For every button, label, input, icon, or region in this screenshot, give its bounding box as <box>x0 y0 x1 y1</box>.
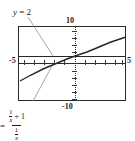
function-equals-sign: = <box>0 121 5 131</box>
axis-label-xmax: 5 <box>127 57 131 65</box>
denominator-inner-fraction: 1 x <box>15 127 19 141</box>
axis-label-xmin: -5 <box>9 57 16 65</box>
plot-viewport <box>18 26 126 101</box>
asymptote-variable: y <box>13 7 17 17</box>
asymptote-equals-sign: = <box>19 7 24 17</box>
denominator-inner-den: x <box>15 134 18 141</box>
asymptote-value: 2 <box>27 7 32 17</box>
curve-path <box>20 37 126 81</box>
graph-figure: 10 -10 -5 5 <box>0 0 135 141</box>
annotation-asymptote-label: y = 2 <box>13 7 31 17</box>
numerator-inner-num: 1 <box>9 109 13 116</box>
fraction-numerator: 1 x + 1 <box>6 108 27 125</box>
axis-label-ymax: 10 <box>66 17 74 25</box>
numerator-plus-term: + 1 <box>15 113 26 121</box>
axis-label-ymin: -10 <box>62 103 73 111</box>
numerator-inner-den: x <box>9 116 12 124</box>
numerator-inner-fraction: 1 x <box>9 109 13 124</box>
fraction-denominator: 1 x <box>12 125 22 141</box>
function-curve <box>19 27 126 101</box>
denominator-inner-num: 1 <box>15 127 19 134</box>
function-fraction: 1 x + 1 1 x <box>6 108 27 141</box>
annotation-function-label: = 1 x + 1 1 x <box>0 108 27 141</box>
